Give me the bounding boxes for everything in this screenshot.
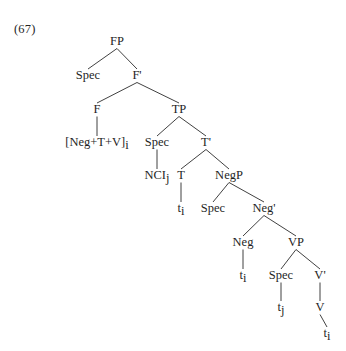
- tree-node-label: NegP: [215, 168, 243, 182]
- tree-node-label: F: [94, 102, 101, 116]
- tree-branch: [243, 216, 264, 237]
- tree-node-label: NCIj: [144, 168, 169, 185]
- syntax-tree-diagram: FPSpecF'FTP[Neg+T+V]iSpecT'NCIjTNegPtiSp…: [0, 0, 346, 351]
- tree-node-label: VP: [288, 235, 304, 249]
- tree-node-label: FP: [110, 34, 124, 48]
- tree-branch: [296, 250, 320, 270]
- tree-branch: [179, 117, 206, 137]
- tree-node-label: [Neg+T+V]i: [65, 135, 129, 152]
- tree-node-label: F': [132, 68, 141, 82]
- tree-node-label: V: [315, 300, 324, 314]
- tree-node-label: V': [314, 268, 325, 282]
- tree-node-label: Spec: [145, 135, 170, 149]
- tree-node-label: Neg': [252, 201, 275, 215]
- tree-node-label: tj: [278, 300, 285, 317]
- tree-branch: [137, 83, 179, 104]
- tree-branch: [213, 183, 229, 203]
- tree-branch: [281, 250, 296, 270]
- tree-node-label: Spec: [201, 201, 226, 215]
- tree-node-label: T': [201, 135, 211, 149]
- tree-node-label: ti: [240, 268, 247, 285]
- tree-branch: [117, 49, 137, 70]
- tree-branch: [229, 183, 264, 203]
- tree-node-layer: FPSpecF'FTP[Neg+T+V]iSpecT'NCIjTNegPtiSp…: [65, 34, 331, 343]
- tree-branch-layer: [88, 49, 327, 328]
- tree-branch: [88, 49, 117, 70]
- tree-branch: [157, 117, 179, 137]
- syntax-tree-figure: (67) FPSpecF'FTP[Neg+T+V]iSpecT'NCIjTNeg…: [0, 0, 346, 351]
- tree-node-label: T: [177, 168, 185, 182]
- tree-branch: [206, 150, 229, 170]
- tree-branch: [264, 216, 296, 237]
- tree-branch: [181, 150, 206, 170]
- tree-branch: [97, 83, 137, 104]
- tree-node-label: ti: [324, 326, 331, 343]
- tree-node-label: ti: [178, 201, 185, 218]
- tree-node-label: Spec: [269, 268, 294, 282]
- tree-node-label: Neg: [233, 235, 255, 249]
- tree-node-label: TP: [172, 102, 187, 116]
- tree-node-label: Spec: [76, 68, 101, 82]
